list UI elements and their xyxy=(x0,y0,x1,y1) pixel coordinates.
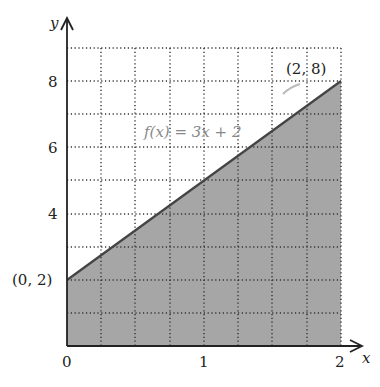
point-label-start: (0, 2) xyxy=(12,271,52,289)
function-area-chart: y x 0 1 2 4 6 8 (0, 2) (2, 8) f(x) = 3x … xyxy=(0,0,380,387)
y-tick-6: 6 xyxy=(48,139,58,157)
function-label: f(x) = 3x + 2 xyxy=(143,123,241,141)
x-tick-1: 1 xyxy=(199,353,209,371)
x-tick-2: 2 xyxy=(335,353,345,371)
label-pointer xyxy=(283,84,300,94)
x-axis-label: x xyxy=(362,349,371,367)
point-label-end: (2, 8) xyxy=(286,60,326,78)
y-tick-4: 4 xyxy=(48,205,58,223)
x-tick-0: 0 xyxy=(62,353,72,371)
y-axis-label: y xyxy=(49,14,59,32)
y-tick-8: 8 xyxy=(48,73,58,91)
